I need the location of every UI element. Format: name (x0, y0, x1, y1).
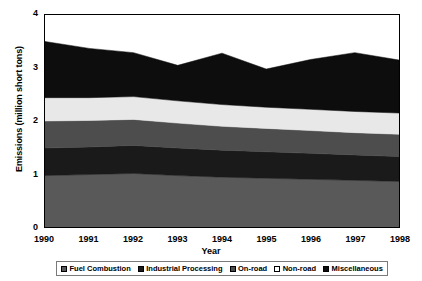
chart-legend: Fuel CombustionIndustrial ProcessingOn-r… (56, 261, 388, 276)
x-tick-label: 1998 (380, 234, 420, 244)
legend-label: Non-road (283, 264, 316, 273)
legend-label: Industrial Processing (146, 264, 222, 273)
legend-swatch-icon (323, 266, 329, 272)
x-tick-label: 1992 (113, 234, 153, 244)
x-tick-label: 1991 (69, 234, 109, 244)
y-tick-label: 3 (20, 63, 38, 72)
legend-item: Non-road (274, 264, 316, 273)
area-series-group (45, 15, 399, 227)
x-tick-label: 1995 (247, 234, 287, 244)
x-axis-title: Year (0, 246, 422, 256)
legend-swatch-icon (274, 266, 280, 272)
plot-area (44, 14, 400, 228)
legend-swatch-icon (138, 266, 144, 272)
stacked-area-chart: Emissions (million short tons) 01234 199… (0, 0, 422, 281)
x-tick-label: 1997 (336, 234, 376, 244)
legend-label: On-road (238, 264, 267, 273)
legend-label: Miscellaneous (332, 264, 383, 273)
legend-item: Fuel Combustion (61, 264, 131, 273)
x-axis-tick-labels: 199019911992199319941995199619971998 (0, 230, 422, 246)
y-tick-label: 1 (20, 170, 38, 179)
legend-item: On-road (230, 264, 268, 273)
legend-item: Industrial Processing (138, 264, 223, 273)
y-tick-label: 4 (20, 9, 38, 18)
x-tick-label: 1990 (24, 234, 64, 244)
area-band-fuel-combustion (45, 173, 399, 227)
x-tick-label: 1996 (291, 234, 331, 244)
y-tick-label: 2 (20, 116, 38, 125)
legend-item: Miscellaneous (323, 264, 383, 273)
x-tick-label: 1993 (158, 234, 198, 244)
legend-swatch-icon (61, 266, 67, 272)
x-tick-label: 1994 (202, 234, 242, 244)
legend-swatch-icon (230, 266, 236, 272)
legend-label: Fuel Combustion (70, 264, 131, 273)
